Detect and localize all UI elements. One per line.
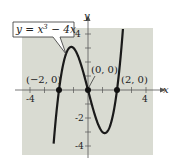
intercept-point: [85, 87, 91, 93]
intercept-point: [114, 87, 120, 93]
y-axis-label: y: [83, 10, 90, 21]
point-label-neg2: (−2, 0): [26, 74, 61, 85]
intercept-point: [56, 87, 62, 93]
equation-rhs: − 4x: [48, 23, 76, 35]
x-tick-label: 4: [142, 94, 148, 104]
y-tick-label: -4: [75, 141, 84, 151]
x-axis-label: x: [163, 84, 169, 95]
equation-lhs: y = x: [15, 23, 43, 35]
y-tick-label: 4: [75, 29, 81, 39]
y-tick-label: -2: [75, 113, 84, 123]
point-label-pos2: (2, 0): [121, 74, 148, 85]
x-tick-label: -4: [26, 94, 35, 104]
cubic-function-chart: -44-4-24 y = x3 − 4x x y (−2, 0) (0, 0) …: [0, 0, 176, 162]
point-label-origin: (0, 0): [91, 64, 118, 75]
